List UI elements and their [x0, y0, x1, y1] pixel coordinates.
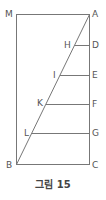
- label-H: H: [64, 40, 71, 50]
- label-K: K: [37, 98, 44, 108]
- label-I: I: [53, 70, 56, 80]
- geometry-diagram: M A H D I E K F L G B C: [0, 0, 106, 200]
- label-F: F: [92, 99, 97, 109]
- label-L: L: [24, 128, 29, 138]
- label-B: B: [6, 160, 12, 170]
- label-C: C: [92, 160, 98, 170]
- diagonal-AB: [17, 15, 90, 165]
- figure-caption: 그림 15: [0, 176, 106, 191]
- label-D: D: [92, 40, 99, 50]
- label-A: A: [92, 9, 99, 19]
- label-M: M: [5, 9, 13, 19]
- label-E: E: [92, 70, 98, 80]
- label-G: G: [92, 128, 99, 138]
